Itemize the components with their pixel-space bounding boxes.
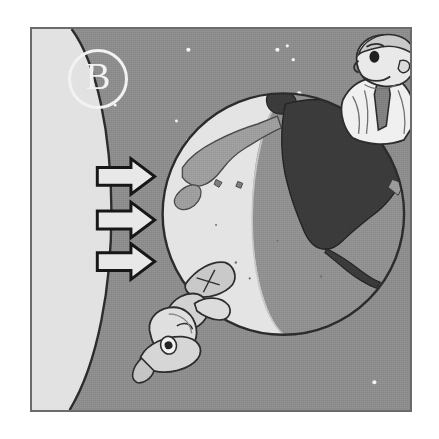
man-awake-ear [398,60,409,72]
panel-inner: B [32,29,410,410]
figure-panel-b: B [30,27,412,412]
panel-label-b: B [68,49,128,109]
illustration-canvas: B [0,0,439,439]
sunlight-arrows [97,159,154,280]
man-awake-eye [369,51,379,63]
landmass-island-b [236,181,243,188]
